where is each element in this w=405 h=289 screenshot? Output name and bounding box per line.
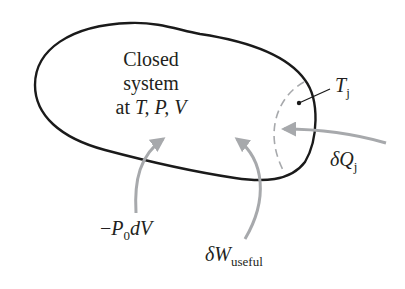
boundary-work-label: −P0dV (100, 217, 155, 243)
system-label-line3: at T, P, V (116, 96, 190, 118)
system-label-line1: Closed (123, 48, 179, 70)
system-label-line2: system (123, 72, 179, 95)
diagram-canvas: Closed system at T, P, V Tj δQj −P0dV δW… (0, 0, 405, 289)
useful-work-label: δWuseful (205, 243, 263, 269)
heat-arrow (284, 129, 386, 143)
heat-transfer-label: δQj (330, 148, 357, 174)
useful-work-arrow (237, 139, 260, 239)
dashed-boundary-arc (274, 82, 304, 172)
boundary-work-arrow (136, 139, 163, 213)
boundary-temperature-label: Tj (335, 74, 350, 100)
system-state-vars: T, P, V (135, 96, 189, 118)
system-label-prefix: at (116, 96, 135, 118)
